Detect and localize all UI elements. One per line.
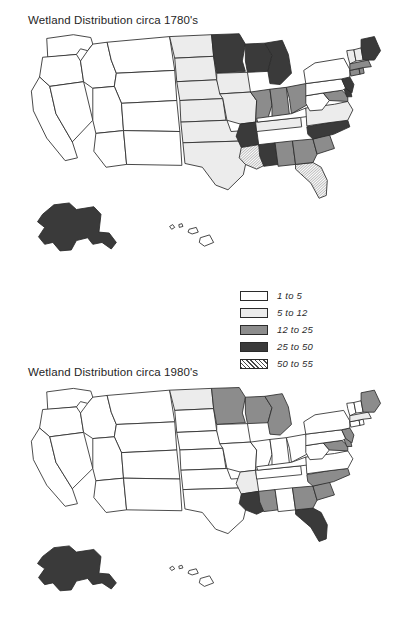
state-or [40, 54, 84, 86]
state-nm [124, 478, 182, 511]
state-ok [181, 468, 246, 489]
state-ks [180, 99, 226, 123]
state-ok [181, 120, 246, 143]
legend-label-3: 12 to 25 [277, 324, 313, 335]
state-wy [114, 422, 176, 453]
state-me [361, 37, 380, 61]
state-hi [170, 565, 214, 586]
legend-swatch-4 [240, 342, 268, 352]
legend-label-1: 1 to 5 [277, 290, 302, 301]
state-in [270, 87, 289, 117]
state-tx [183, 141, 248, 190]
state-sd [175, 409, 217, 433]
state-ne [177, 80, 223, 101]
state-az [94, 131, 127, 168]
legend-item: 25 to 50 [240, 339, 360, 355]
state-ak [38, 546, 117, 591]
state-sd [175, 56, 217, 81]
state-in [270, 438, 289, 466]
state-al [275, 488, 295, 512]
legend-swatch-1 [240, 291, 268, 301]
state-az [94, 478, 127, 512]
state-ga [292, 486, 317, 510]
state-ar [236, 470, 259, 494]
state-ia [217, 424, 251, 444]
legend-label-2: 5 to 12 [277, 307, 307, 318]
legend-item: 1 to 5 [240, 288, 360, 304]
state-fl [296, 508, 328, 541]
state-co [121, 450, 179, 479]
state-fl [296, 163, 328, 199]
state-ks [180, 448, 226, 470]
state-nm [124, 131, 182, 166]
choropleth-map-1980 [0, 358, 407, 638]
legend-item: 12 to 25 [240, 322, 360, 338]
state-nd [170, 388, 214, 410]
state-me [361, 390, 380, 412]
state-mn [212, 388, 246, 425]
state-tx [183, 488, 248, 534]
state-co [121, 101, 179, 132]
state-wy [114, 70, 176, 103]
choropleth-map-1780 [0, 0, 407, 300]
legend-label-4: 25 to 50 [277, 341, 313, 352]
state-ar [236, 122, 259, 147]
state-mt [107, 37, 175, 74]
legend-item: 5 to 12 [240, 305, 360, 321]
state-al [275, 141, 295, 166]
state-mt [107, 390, 175, 424]
state-ak [38, 203, 117, 251]
legend-swatch-2 [240, 308, 268, 318]
map-panel-1780: Wetland Distribution circa 1780's [0, 0, 407, 300]
state-ia [217, 72, 251, 94]
state-mn [212, 34, 246, 73]
state-ne [177, 431, 223, 450]
state-hi [170, 224, 214, 247]
legend-swatch-3 [240, 325, 268, 335]
state-nd [170, 35, 214, 59]
map-panel-1980: Wetland Distribution circa 1980's [0, 358, 407, 638]
state-ga [292, 139, 317, 164]
state-or [40, 407, 84, 437]
